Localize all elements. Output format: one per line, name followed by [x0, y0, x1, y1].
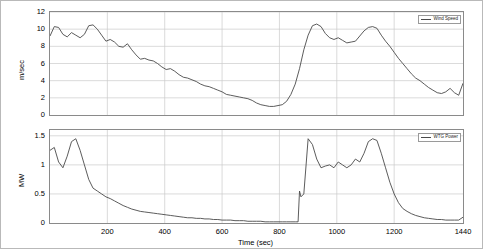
ytick-top-8: 8: [21, 41, 45, 50]
wind-speed-plot-panel: Wind Speed: [49, 11, 464, 116]
xtick-600: 600: [208, 227, 236, 236]
xtick-1200: 1200: [380, 227, 408, 236]
ytick-top-10: 10: [21, 24, 45, 33]
xtick-1440: 1440: [449, 227, 477, 236]
figure: Wind Speed 0 2 4 6 8 10 12 m/sec WTG Pow…: [9, 7, 474, 242]
ytick-top-0: 0: [21, 110, 45, 119]
xtick-200: 200: [93, 227, 121, 236]
legend-label: Wind Speed: [433, 17, 458, 22]
wtg-power-plot-svg: [50, 130, 463, 223]
ytick-top-12: 12: [21, 7, 45, 16]
xtick-400: 400: [151, 227, 179, 236]
ylabel-wind-speed: m/sec: [17, 59, 26, 79]
ytick-bottom-0: 0: [21, 218, 45, 227]
wind-speed-plot-svg: [50, 12, 463, 115]
wind-speed-legend: Wind Speed: [418, 15, 461, 24]
legend-label: WTG Power: [433, 135, 458, 140]
xtick-800: 800: [265, 227, 293, 236]
chart-figure-container: Wind Speed 0 2 4 6 8 10 12 m/sec WTG Pow…: [0, 0, 483, 249]
wtg-power-plot-panel: WTG Power: [49, 129, 464, 224]
ytick-bottom-0p5: 0.5: [21, 189, 45, 198]
legend-line-swatch: [421, 19, 431, 20]
ytick-bottom-1p5: 1.5: [21, 131, 45, 140]
xlabel-time: Time (sec): [226, 238, 286, 247]
ylabel-mw: MW: [17, 173, 26, 186]
xtick-1000: 1000: [323, 227, 351, 236]
wtg-power-legend: WTG Power: [418, 133, 461, 142]
ytick-bottom-1: 1: [21, 160, 45, 169]
ytick-top-2: 2: [21, 93, 45, 102]
legend-line-swatch: [421, 137, 431, 138]
